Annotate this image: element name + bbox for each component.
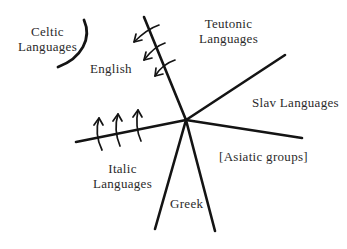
label-greek: Greek — [170, 196, 203, 211]
branch-teutonic — [144, 17, 186, 120]
branch-asiatic — [186, 120, 302, 138]
label-celtic-line1: Celtic — [18, 24, 77, 39]
branch-slav — [186, 55, 285, 120]
label-slav: Slav Languages — [252, 95, 339, 110]
language-diagram: Celtic Languages English Teutonic Langua… — [0, 0, 347, 249]
label-celtic-line2: Languages — [18, 39, 77, 54]
label-asiatic: [Asiatic groups] — [219, 149, 308, 164]
branch-italic — [76, 120, 186, 142]
label-teutonic: Teutonic Languages — [199, 16, 258, 46]
label-celtic: Celtic Languages — [18, 24, 77, 54]
label-english: English — [90, 61, 132, 76]
label-italic-line1: Italic — [93, 161, 152, 176]
branch-greek-left — [155, 120, 186, 229]
branch-greek-right — [186, 120, 215, 231]
teutonic-arrows — [134, 25, 175, 76]
label-teutonic-line2: Languages — [199, 31, 258, 46]
label-teutonic-line1: Teutonic — [199, 16, 258, 31]
label-italic: Italic Languages — [93, 161, 152, 191]
label-italic-line2: Languages — [93, 176, 152, 191]
